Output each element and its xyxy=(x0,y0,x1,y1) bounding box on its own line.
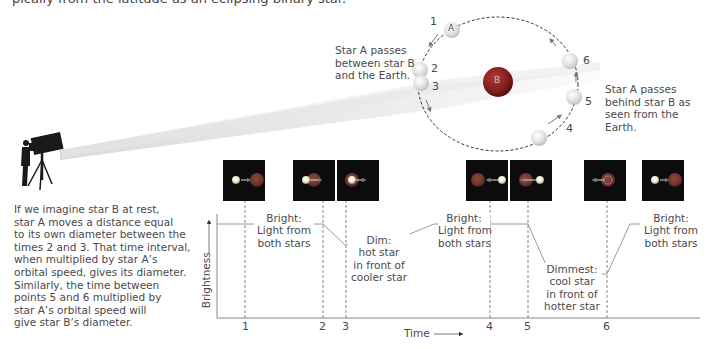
thumbnail-4 xyxy=(466,160,508,201)
orbit-position-1: 1 xyxy=(430,15,437,28)
orbit-position-5: 5 xyxy=(585,95,592,108)
orbit-position-4: 4 xyxy=(566,122,573,135)
star-a-position-3 xyxy=(413,75,429,91)
telescope-observer-icon xyxy=(21,132,64,190)
orbit-position-2: 2 xyxy=(431,62,438,75)
orbit-arrow-icon xyxy=(551,40,556,46)
phase-label-dimmest: Dimmest: cool star in front of hotter st… xyxy=(542,263,602,313)
phase-label-bright-2: Bright: Light from both stars xyxy=(438,212,490,249)
y-axis-label: Brightness xyxy=(200,250,212,310)
phase-label-dim: Dim: hot star in front of cooler star xyxy=(348,234,410,284)
star-a-position-6 xyxy=(562,53,578,69)
time-tick-3: 3 xyxy=(342,320,349,333)
time-tick-4: 4 xyxy=(486,320,493,333)
orbit-position-3: 3 xyxy=(432,80,439,93)
time-tick-2: 2 xyxy=(319,320,326,333)
x-axis-label: Time xyxy=(404,327,430,339)
time-tick-1: 1 xyxy=(242,320,249,333)
thumbnail-3 xyxy=(337,160,379,201)
star-a-label: A xyxy=(448,23,454,33)
phase-label-bright-3: Bright: Light from both stars xyxy=(640,212,702,249)
star-a-position-4 xyxy=(531,130,547,146)
thumbnail-5 xyxy=(510,160,552,201)
thumbnail-2 xyxy=(293,160,335,201)
orbit-arrow-icon xyxy=(548,116,560,124)
time-tick-5: 5 xyxy=(524,320,531,333)
phase-label-bright-1: Bright: Light from both stars xyxy=(254,212,314,249)
thumbnail-1 xyxy=(223,160,265,201)
star-b-label: B xyxy=(494,75,500,85)
star-a-position-5 xyxy=(566,89,582,105)
note-star-a-front: Star A passes between star B and the Ear… xyxy=(335,44,415,82)
thumbnail-6 xyxy=(584,160,626,201)
explanation-text: If we imagine star B at rest, star A mov… xyxy=(14,203,190,329)
time-tick-6: 6 xyxy=(603,320,610,333)
light-beam xyxy=(60,62,600,160)
thumbnail-7 xyxy=(642,160,684,201)
note-star-a-behind: Star A passes behind star B as seen from… xyxy=(605,83,713,133)
orbit-position-6: 6 xyxy=(583,54,590,67)
